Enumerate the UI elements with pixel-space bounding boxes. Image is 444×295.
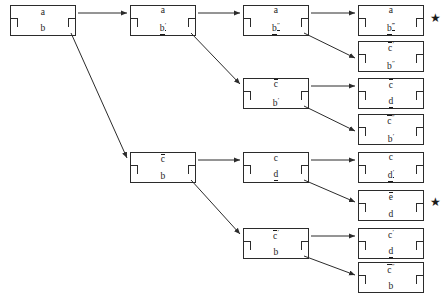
node-top-symbol: a	[273, 6, 279, 16]
derivation-node[interactable]: ab	[10, 5, 76, 36]
derivation-node[interactable]: cd	[358, 78, 424, 109]
prime-mark: ′	[165, 22, 167, 31]
edge-arrow	[304, 256, 355, 275]
edge-arrow	[191, 180, 240, 234]
node-labels: c′b″	[358, 41, 424, 72]
derivation-node[interactable]: cd′	[358, 152, 424, 183]
node-labels: ab′	[130, 5, 196, 36]
node-bottom-symbol: b′	[159, 22, 167, 35]
node-top-symbol: c′	[272, 229, 280, 241]
node-top-symbol: c	[388, 153, 394, 163]
node-bottom-symbol: d	[388, 97, 395, 108]
node-top-symbol: a	[40, 8, 46, 18]
prime-mark: ′	[392, 40, 394, 48]
edge-arrow	[71, 33, 127, 158]
node-top-symbol: e	[388, 192, 394, 203]
star-marker-icon: ★	[430, 12, 441, 24]
derivation-node[interactable]: c″b	[358, 262, 424, 293]
node-labels: c′b	[243, 228, 309, 259]
node-bottom-symbol: b‴	[386, 22, 396, 35]
node-bottom-symbol: d	[388, 210, 395, 220]
node-labels: c′d	[358, 228, 424, 259]
edges	[71, 13, 355, 275]
derivation-node[interactable]: c′b″	[358, 41, 424, 72]
node-bottom-symbol: b	[160, 172, 167, 182]
node-bottom-symbol: b	[273, 248, 280, 258]
prime-mark: ′	[393, 169, 395, 178]
derivation-node[interactable]: ab‴	[358, 5, 424, 36]
derivation-node[interactable]: cd	[243, 152, 309, 183]
node-labels: c″b′	[358, 114, 424, 145]
derivation-node[interactable]: cb′	[243, 78, 309, 109]
derivation-node[interactable]: c″b′	[358, 114, 424, 145]
node-top-symbol: c	[160, 154, 166, 165]
node-top-symbol: c″	[386, 263, 395, 275]
node-bottom-symbol: d	[388, 247, 395, 258]
derivation-node[interactable]: ab″	[243, 5, 309, 36]
node-bottom-symbol: d	[273, 170, 280, 181]
node-bottom-symbol: d′	[387, 169, 395, 182]
node-top-symbol: c′	[387, 229, 395, 241]
derivation-node[interactable]: ed	[358, 190, 424, 221]
node-top-symbol: c	[388, 79, 394, 90]
star-marker-icon: ★	[430, 196, 441, 208]
node-labels: ed	[358, 190, 424, 221]
derivation-node[interactable]: c′b	[243, 228, 309, 259]
node-labels: ab	[10, 5, 76, 36]
prime-mark: ″	[392, 59, 395, 67]
node-bottom-symbol: b	[40, 24, 47, 34]
node-labels: cd′	[358, 152, 424, 183]
prime-mark: ″	[392, 262, 395, 270]
edge-arrow	[191, 33, 240, 84]
node-bottom-symbol: b′	[387, 133, 395, 145]
node-labels: ab″	[243, 5, 309, 36]
derivation-node[interactable]: c′d	[358, 228, 424, 259]
node-labels: cb′	[243, 78, 309, 109]
node-top-symbol: c	[273, 79, 279, 90]
node-bottom-symbol: b″	[271, 22, 281, 35]
node-labels: c″b	[358, 262, 424, 293]
node-labels: ab‴	[358, 5, 424, 36]
prime-mark: ′	[393, 132, 395, 140]
node-top-symbol: c′	[387, 41, 395, 53]
node-bottom-symbol: b	[388, 282, 395, 292]
prime-mark: ′	[277, 228, 279, 236]
derivation-node[interactable]: ab′	[130, 5, 196, 36]
derivation-node[interactable]: cb	[130, 152, 196, 183]
edge-arrow	[304, 106, 355, 131]
node-labels: cb	[130, 152, 196, 183]
prime-mark: ′	[278, 96, 280, 104]
prime-mark: ″	[277, 22, 280, 31]
node-bottom-symbol: b″	[386, 60, 396, 72]
node-top-symbol: c″	[386, 114, 395, 126]
edge-arrow	[304, 33, 355, 58]
prime-mark: ‴	[392, 22, 395, 31]
node-top-symbol: c	[273, 154, 279, 164]
node-labels: cd	[358, 78, 424, 109]
prime-mark: ′	[392, 228, 394, 236]
edge-arrow	[304, 180, 355, 202]
node-bottom-symbol: b′	[272, 97, 280, 109]
node-labels: cd	[243, 152, 309, 183]
diagram-canvas: abab′ab″ab‴c′b″cb′cdc″b′cbcdcd′edc′bc′dc…	[0, 0, 444, 295]
node-top-symbol: a	[160, 6, 166, 16]
node-top-symbol: a	[388, 6, 394, 16]
prime-mark: ″	[392, 113, 395, 121]
